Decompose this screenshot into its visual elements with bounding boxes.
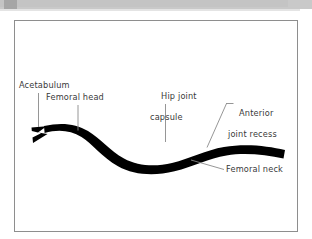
label-hip-joint-capsule-line2: capsule <box>150 112 197 123</box>
label-acetabulum: Acetabulum <box>19 80 70 91</box>
label-femoral-neck: Femoral neck <box>226 164 283 175</box>
label-femoral-head: Femoral head <box>46 92 104 103</box>
label-anterior-joint-recess-line1: Anterior <box>239 108 273 118</box>
page-bottom-edge <box>0 235 312 239</box>
label-anterior-joint-recess: Anterior joint recess <box>228 97 277 160</box>
label-hip-joint-capsule: Hip joint capsule <box>150 80 197 143</box>
page-canvas: Acetabulum Femoral head Hip joint capsul… <box>0 0 312 239</box>
page-header-tab <box>4 0 17 9</box>
page-header-band-inner <box>0 0 288 7</box>
label-hip-joint-capsule-line1: Hip joint <box>161 91 197 101</box>
page-header-band <box>0 0 312 9</box>
label-anterior-joint-recess-line2: joint recess <box>228 129 277 140</box>
page-header-shadow <box>0 9 300 11</box>
